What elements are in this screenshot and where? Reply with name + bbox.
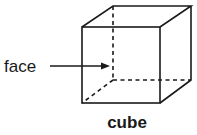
shape-label: cube <box>107 113 147 132</box>
hidden-edges <box>82 6 191 103</box>
cube-diagram: face cube <box>0 0 197 135</box>
right-side-edges <box>160 6 191 103</box>
visible-back-edges <box>82 6 191 27</box>
front-face <box>82 27 160 103</box>
cube-shape <box>82 6 191 103</box>
arrow-head-icon <box>101 63 110 70</box>
face-pointer: face <box>4 57 110 76</box>
face-label: face <box>4 57 36 76</box>
